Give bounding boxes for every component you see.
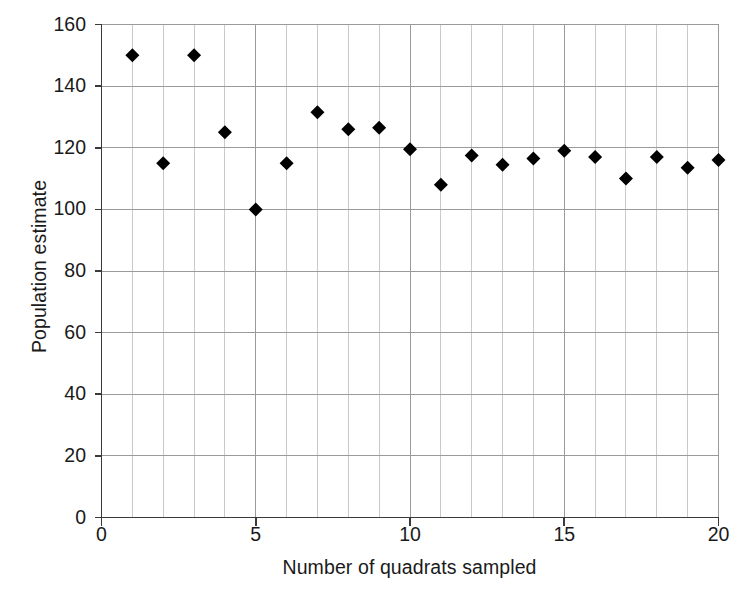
x-tick-label: 10: [380, 525, 440, 545]
data-point-marker: [712, 153, 726, 167]
data-point-marker: [125, 48, 139, 62]
x-tick-label: 15: [534, 525, 594, 545]
data-point-marker: [434, 178, 448, 192]
data-point-marker: [465, 148, 479, 162]
plot-area: [0, 0, 748, 608]
data-point-marker: [496, 158, 510, 172]
data-point-marker: [650, 150, 664, 164]
data-point-marker: [156, 156, 170, 170]
data-point-marker: [526, 152, 540, 166]
x-tick-label: 5: [226, 525, 286, 545]
data-point-marker: [588, 150, 602, 164]
x-tick-label: 20: [689, 525, 748, 545]
data-point-marker: [341, 122, 355, 136]
data-point-marker: [218, 125, 232, 139]
data-point-marker: [249, 202, 263, 216]
data-point-marker: [681, 161, 695, 175]
data-point-markers: [125, 48, 725, 216]
scatter-chart-figure: Population estimate 02040608010012014016…: [0, 0, 748, 608]
tick-marks: [95, 25, 719, 526]
data-point-marker: [403, 142, 417, 156]
data-point-marker: [619, 172, 633, 186]
x-tick-label: 0: [72, 525, 132, 545]
data-point-marker: [280, 156, 294, 170]
data-point-marker: [187, 48, 201, 62]
data-point-marker: [557, 144, 571, 158]
x-axis-title: Number of quadrats sampled: [101, 556, 718, 579]
x-axis-tick-labels: 05101520: [0, 525, 748, 555]
data-point-marker: [372, 121, 386, 135]
data-point-marker: [310, 105, 324, 119]
